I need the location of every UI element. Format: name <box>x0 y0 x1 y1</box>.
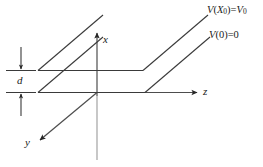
diagram-canvas <box>0 0 263 167</box>
separation-dimension-label: d <box>17 75 23 86</box>
y-axis-label: y <box>25 137 30 148</box>
upper-plate-paren-close: )= <box>227 4 236 15</box>
x-axis-label: x <box>103 34 108 45</box>
lower-plate-potential-label: V(0)=0 <box>209 30 239 41</box>
upper-plate-potential-label: V(X0)=V0 <box>207 5 247 16</box>
lower-plate-left-edge <box>38 37 103 93</box>
lower-plate-right-edge <box>145 37 210 93</box>
lower-plate <box>38 37 210 93</box>
lower-plate-potential-value: 0 <box>234 29 239 40</box>
upper-plate <box>38 15 208 71</box>
lower-plate-paren-close: )= <box>224 29 233 40</box>
y-axis <box>40 93 97 141</box>
z-axis-label: z <box>203 86 207 97</box>
y-axis-line <box>40 93 97 141</box>
parallel-plate-capacitor-figure: x y z d V(X0)=V0 V(0)=0 <box>0 0 263 167</box>
upper-plate-right-edge <box>143 15 208 71</box>
upper-plate-left-edge <box>38 15 103 71</box>
upper-plate-value-subscript: 0 <box>243 7 247 16</box>
